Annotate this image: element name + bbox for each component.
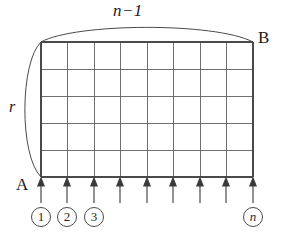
- grid-inner-lines: [41, 42, 253, 177]
- index-circle-n: n: [243, 207, 263, 227]
- point-label-a: A: [16, 176, 28, 193]
- arrow-4: [117, 178, 123, 203]
- arrow-2: [64, 178, 70, 203]
- arrow-8: [223, 178, 229, 203]
- left-arc-r: [25, 42, 41, 177]
- arrow-5: [144, 178, 150, 203]
- upward-arrow-group: [38, 178, 256, 203]
- arrow-6: [170, 178, 176, 203]
- index-circle-2: 2: [57, 207, 77, 227]
- diagram-svg: [0, 0, 282, 235]
- point-label-b: B: [258, 29, 269, 46]
- left-arc-label-r: r: [9, 99, 15, 115]
- arrow-3: [91, 178, 97, 203]
- index-circle-3: 3: [84, 207, 104, 227]
- arrow-7: [197, 178, 203, 203]
- index-circle-1: 1: [31, 207, 51, 227]
- arrow-1: [38, 178, 44, 203]
- top-arc-n-minus-1: [41, 27, 253, 42]
- arrow-9: [250, 178, 256, 203]
- top-arc-label: n−1: [113, 2, 143, 19]
- figure-canvas: n−1 r A B 1 2 3 n: [0, 0, 282, 235]
